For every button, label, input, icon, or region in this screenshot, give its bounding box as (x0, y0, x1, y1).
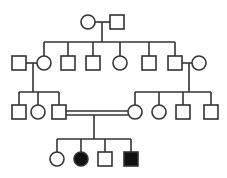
male-II-spouse-1 (12, 56, 26, 70)
male-III-7 (204, 105, 218, 119)
female-IV-2-affected (74, 152, 88, 166)
female-II-1 (37, 56, 51, 70)
female-III-4 (128, 105, 142, 119)
male-II-5 (142, 56, 156, 70)
female-I-1 (81, 15, 95, 29)
male-III-6 (176, 105, 190, 119)
male-II-3 (86, 56, 100, 70)
male-II-6 (168, 56, 182, 70)
female-IV-1 (50, 152, 64, 166)
female-III-5 (152, 105, 166, 119)
female-II-4 (113, 56, 127, 70)
male-III-3 (52, 105, 66, 119)
female-II-spouse-2 (192, 56, 206, 70)
male-II-2 (61, 56, 75, 70)
male-IV-3 (98, 152, 112, 166)
female-III-2 (31, 105, 45, 119)
male-I-2 (110, 15, 124, 29)
male-III-1 (12, 105, 26, 119)
pedigree-chart (0, 0, 227, 178)
male-IV-4-affected (124, 152, 138, 166)
